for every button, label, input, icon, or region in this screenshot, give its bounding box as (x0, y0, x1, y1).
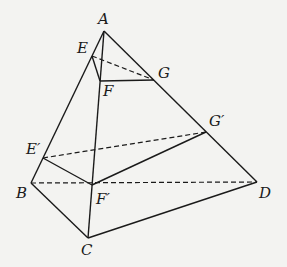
dashed-edge-BD (31, 182, 257, 183)
label-E-prime: E′ (26, 142, 40, 157)
edge-FG (100, 80, 154, 81)
edge-AB (31, 31, 104, 183)
label-F: F (103, 84, 113, 99)
edge-BC (31, 183, 88, 238)
label-A: A (98, 12, 109, 27)
label-C: C (81, 243, 92, 258)
edge-AD (104, 31, 257, 182)
label-D: D (259, 186, 271, 201)
label-G-prime: G′ (209, 114, 224, 129)
edge-E1F1 (43, 158, 92, 185)
diagram-lines (0, 0, 287, 267)
dashed-edge-E1G1 (43, 132, 206, 158)
label-F-prime: F′ (96, 192, 110, 207)
label-G: G (158, 66, 170, 81)
label-E: E (77, 41, 88, 56)
edge-EF (92, 56, 100, 81)
edge-CD (88, 182, 257, 238)
label-B: B (16, 186, 27, 201)
edge-F1G1 (92, 132, 206, 185)
geometry-diagram: A E F G E′ G′ B F′ C D (0, 0, 287, 267)
